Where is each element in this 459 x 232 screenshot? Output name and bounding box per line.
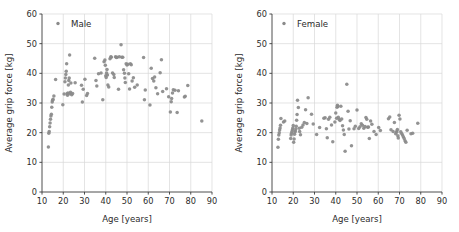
- x-tick-label: 20: [288, 196, 298, 206]
- data-point: [121, 56, 125, 60]
- y-axis-title-male: Average grip force [kg]: [4, 53, 14, 152]
- data-point: [105, 68, 109, 72]
- data-point: [48, 121, 52, 125]
- data-point: [323, 116, 327, 120]
- data-point: [132, 76, 136, 80]
- data-point: [350, 144, 354, 148]
- data-point: [47, 145, 51, 149]
- data-point: [69, 81, 73, 85]
- data-point: [99, 71, 103, 75]
- data-point: [347, 127, 351, 131]
- data-point: [93, 56, 97, 60]
- data-point: [49, 118, 53, 122]
- data-point: [315, 133, 319, 137]
- data-point: [326, 136, 330, 140]
- data-point: [292, 137, 296, 141]
- data-point: [95, 84, 99, 88]
- data-point: [113, 76, 117, 80]
- data-point: [64, 70, 68, 74]
- data-point: [374, 133, 378, 137]
- data-point: [330, 123, 334, 127]
- data-point: [325, 127, 329, 131]
- x-tick-label: 10: [37, 196, 47, 206]
- data-point: [130, 63, 134, 67]
- data-point: [200, 119, 204, 123]
- data-point: [306, 96, 310, 100]
- data-point: [81, 100, 85, 104]
- data-point: [71, 92, 75, 96]
- data-point: [106, 73, 110, 77]
- data-point: [64, 76, 68, 80]
- data-point: [276, 145, 280, 149]
- data-point: [292, 140, 296, 144]
- data-point: [318, 126, 322, 129]
- data-point: [186, 84, 190, 88]
- data-point: [295, 113, 299, 117]
- x-tick-label: 90: [437, 196, 447, 206]
- data-point: [152, 79, 156, 83]
- y-tick-label: 0: [32, 187, 37, 197]
- data-point: [65, 62, 69, 65]
- data-point: [369, 119, 373, 123]
- data-point: [94, 79, 98, 83]
- x-tick-label: 50: [352, 196, 362, 206]
- data-point: [123, 76, 127, 80]
- y-tick-label: 50: [257, 39, 267, 49]
- data-point: [104, 64, 108, 68]
- scatter-plot-female: 1020304050607080900102030405060 Female A…: [230, 0, 459, 232]
- data-point: [153, 75, 157, 79]
- data-point: [396, 136, 400, 140]
- x-tick-label: 90: [207, 196, 217, 206]
- data-point: [372, 130, 376, 134]
- y-tick-label: 10: [27, 157, 37, 167]
- data-point: [86, 92, 90, 96]
- data-point: [130, 79, 134, 83]
- data-point: [177, 89, 181, 93]
- data-point: [173, 88, 177, 92]
- data-point: [158, 71, 162, 75]
- data-point: [277, 137, 281, 141]
- data-point: [355, 108, 359, 112]
- data-point: [294, 124, 298, 128]
- data-point: [103, 58, 107, 62]
- data-point: [354, 124, 358, 128]
- x-tick-label: 60: [373, 196, 383, 206]
- data-point: [396, 128, 400, 132]
- data-point: [135, 83, 139, 87]
- data-point: [296, 99, 300, 103]
- gridlines-female: [272, 14, 442, 192]
- data-point: [54, 78, 58, 82]
- y-tick-label: 60: [257, 9, 267, 19]
- data-point: [405, 129, 409, 133]
- data-point: [311, 122, 315, 126]
- y-tick-label: 10: [257, 157, 267, 167]
- data-point: [391, 130, 395, 134]
- data-point: [283, 119, 287, 123]
- data-point: [336, 105, 340, 109]
- x-tick-label: 80: [186, 196, 196, 206]
- data-point: [416, 121, 420, 125]
- data-point: [305, 122, 309, 126]
- legend-marker-icon: [56, 22, 59, 25]
- data-point: [124, 81, 128, 85]
- data-point: [388, 115, 392, 119]
- y-axis-title-female: Average grip force [kg]: [234, 53, 244, 152]
- data-point: [398, 117, 402, 121]
- data-point: [119, 43, 123, 47]
- legend-marker-icon: [282, 22, 285, 25]
- data-point: [368, 137, 372, 141]
- data-point: [80, 83, 84, 87]
- y-tick-label: 60: [27, 9, 37, 19]
- data-point: [345, 83, 349, 87]
- data-point: [64, 73, 68, 77]
- y-tick-label: 40: [27, 68, 37, 78]
- data-point: [61, 103, 65, 107]
- data-point: [377, 126, 381, 129]
- x-tick-label: 20: [58, 196, 68, 206]
- panel-female: 1020304050607080900102030405060 Female A…: [230, 0, 459, 232]
- data-point: [165, 87, 169, 91]
- ticks-female: 1020304050607080900102030405060: [257, 9, 448, 206]
- data-point: [310, 113, 314, 117]
- data-point: [393, 121, 397, 125]
- data-point: [341, 124, 345, 128]
